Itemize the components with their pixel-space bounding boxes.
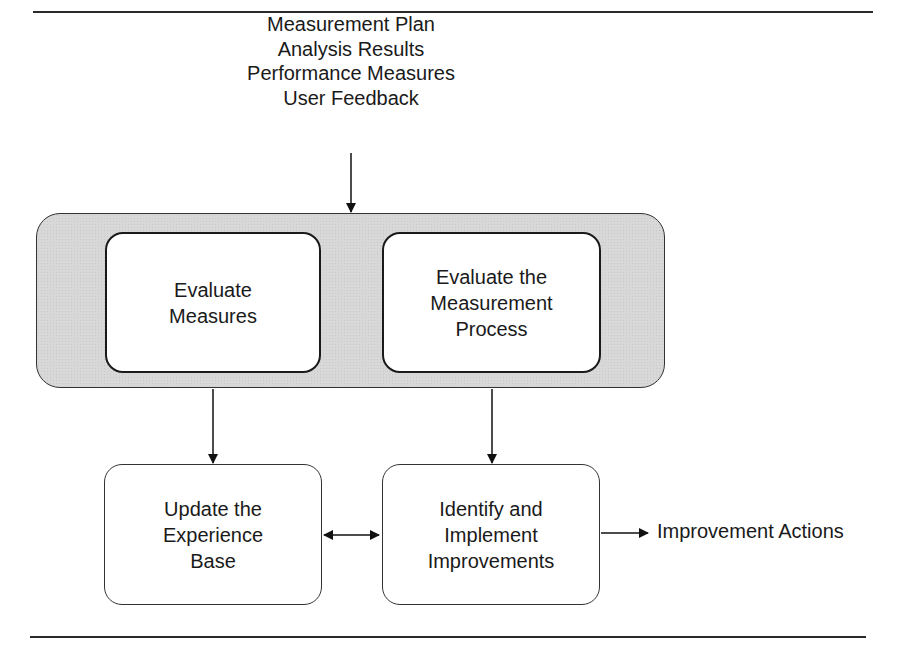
connector-arrows [0,0,897,654]
